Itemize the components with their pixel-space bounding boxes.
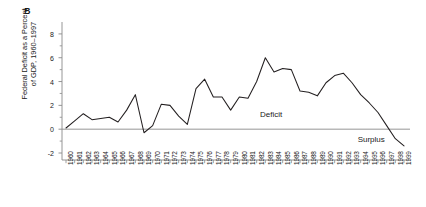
x-tick-label: 1999 (406, 151, 412, 165)
x-tick-label: 1963 (94, 151, 100, 165)
x-tick-label: 1982 (259, 151, 265, 165)
x-tick-label: 1989 (320, 151, 326, 165)
x-tick-label: 1962 (86, 151, 92, 165)
x-tick-label: 1972 (172, 151, 178, 165)
annotation-surplus: Surplus (358, 136, 385, 144)
x-tick-label: 1993 (354, 151, 360, 165)
x-tick-label: 1977 (216, 151, 222, 165)
x-tick-label: 1973 (181, 151, 187, 165)
x-tick-label: 1988 (311, 151, 317, 165)
x-tick-label: 1994 (363, 151, 369, 165)
x-tick-label: 1983 (268, 151, 274, 165)
y-tick-label: 6 (38, 54, 54, 61)
x-tick-label: 1998 (398, 151, 404, 165)
x-tick-label: 1966 (120, 151, 126, 165)
figure-panel-b: B Federal Deficit as a Percent of GDP, 1… (0, 0, 426, 207)
x-tick-label: 1960 (68, 151, 74, 165)
x-tick-label: 1969 (146, 151, 152, 165)
x-tick-label: 1980 (242, 151, 248, 165)
y-tick-label: 8 (38, 30, 54, 37)
deficit-line-series (66, 58, 404, 146)
annotation-deficit: Deficit (260, 111, 282, 119)
x-tick-label: 1971 (164, 151, 170, 165)
x-tick-label: 1997 (389, 151, 395, 165)
tick-marks (59, 34, 405, 163)
y-tick-label: 2 (38, 102, 54, 109)
x-tick-label: 1964 (103, 151, 109, 165)
chart-canvas (0, 0, 426, 207)
x-tick-label: 1978 (224, 151, 230, 165)
x-tick-label: 1976 (207, 151, 213, 165)
y-tick-label: -2 (38, 150, 54, 157)
x-tick-label: 1991 (337, 151, 343, 165)
x-tick-label: 1995 (372, 151, 378, 165)
x-tick-label: 1967 (129, 151, 135, 165)
x-tick-label: 1968 (138, 151, 144, 165)
x-tick-label: 1981 (250, 151, 256, 165)
x-tick-label: 1984 (276, 151, 282, 165)
x-tick-label: 1979 (233, 151, 239, 165)
x-tick-label: 1986 (294, 151, 300, 165)
y-tick-label: 0 (38, 126, 54, 133)
x-tick-label: 1970 (155, 151, 161, 165)
x-tick-label: 1985 (285, 151, 291, 165)
x-tick-label: 1992 (346, 151, 352, 165)
y-tick-label: 4 (38, 78, 54, 85)
x-tick-label: 1961 (77, 151, 83, 165)
x-tick-label: 1974 (190, 151, 196, 165)
x-tick-label: 1996 (380, 151, 386, 165)
line-chart-svg (0, 0, 426, 207)
x-tick-label: 1965 (112, 151, 118, 165)
x-tick-label: 1987 (302, 151, 308, 165)
x-tick-label: 1975 (198, 151, 204, 165)
x-tick-label: 1990 (328, 151, 334, 165)
